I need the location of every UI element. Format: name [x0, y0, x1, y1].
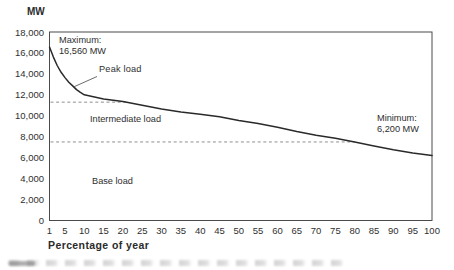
x-tick-label: 40 [195, 225, 206, 236]
x-tick-label: 45 [214, 225, 225, 236]
x-tick-label: 30 [156, 225, 167, 236]
annotation-maximum-line1: Maximum: [59, 35, 106, 47]
x-tick-label: 85 [369, 225, 380, 236]
x-tick-label: 1 [47, 225, 52, 236]
x-tick-label: 15 [98, 225, 109, 236]
load-duration-curve-figure: MW 18,00016,00014,00012,00010,0008,0006,… [0, 0, 454, 270]
annotation-base-load: Base load [92, 176, 133, 188]
plot-border [50, 32, 433, 221]
y-tick-label: 18,000 [10, 27, 44, 38]
x-tick-label: 90 [388, 225, 399, 236]
x-tick-label: 10 [79, 225, 90, 236]
annotation-minimum: Minimum: 6,200 MW [377, 113, 419, 136]
y-tick-label: 14,000 [10, 68, 44, 79]
faded-caption-artifact [8, 260, 343, 266]
x-tick-label: 20 [118, 225, 129, 236]
x-tick-label: 95 [407, 225, 418, 236]
annotation-minimum-line1: Minimum: [377, 113, 419, 125]
y-tick-label: 4,000 [10, 173, 44, 184]
y-tick-label: 6,000 [10, 152, 44, 163]
peak-load-pointer-line [74, 77, 97, 87]
x-tick-label: 70 [311, 225, 322, 236]
x-tick-label: 80 [349, 225, 360, 236]
annotation-minimum-line2: 6,200 MW [377, 124, 419, 136]
faded-caption-artifact-dark [9, 261, 35, 266]
x-tick-label: 75 [330, 225, 341, 236]
y-tick-label: 16,000 [10, 47, 44, 58]
x-tick-label: 5 [62, 225, 67, 236]
annotation-maximum-line2: 16,560 MW [59, 46, 106, 58]
y-tick-label: 0 [10, 215, 44, 226]
x-tick-label: 65 [291, 225, 302, 236]
x-tick-label: 100 [424, 225, 440, 236]
x-tick-label: 25 [137, 225, 148, 236]
annotation-intermediate-load: Intermediate load [90, 114, 161, 126]
x-tick-label: 55 [253, 225, 264, 236]
y-axis-title: MW [27, 6, 45, 17]
annotation-maximum: Maximum: 16,560 MW [59, 35, 106, 58]
y-tick-label: 12,000 [10, 89, 44, 100]
annotation-peak-load: Peak load [99, 64, 142, 76]
x-tick-label: 35 [176, 225, 187, 236]
x-tick-label: 50 [234, 225, 245, 236]
y-tick-label: 10,000 [10, 110, 44, 121]
y-tick-label: 2,000 [10, 194, 44, 205]
x-tick-label: 60 [272, 225, 283, 236]
y-tick-label: 8,000 [10, 131, 44, 142]
x-axis-title: Percentage of year [48, 239, 149, 251]
